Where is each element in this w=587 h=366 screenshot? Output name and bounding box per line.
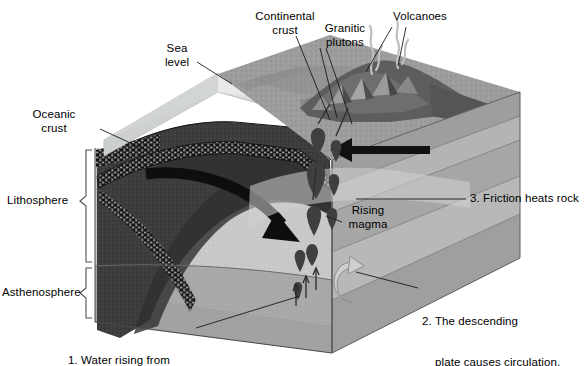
figure-canvas: Sea level Oceanic crust Continental crus… — [0, 0, 587, 366]
label-volcanoes: Volcanoes — [393, 10, 447, 24]
label-oceanic-crust: Oceanic crust — [12, 108, 96, 135]
label-asthenosphere: Asthenosphere — [2, 286, 81, 300]
note-2-line-2: plate causes circulation, — [422, 356, 560, 366]
layer-brackets — [80, 150, 92, 318]
label-granitic-plutons: Granitic plutons — [310, 22, 380, 49]
note-2-descending-plate: 2. The descending plate causes circulati… — [422, 288, 560, 366]
note-1-water-rising: 1. Water rising from heated oceanic crus… — [68, 327, 189, 366]
label-sea-level: Sea level — [148, 42, 206, 69]
note-1-line-1: 1. Water rising from — [68, 354, 189, 366]
note-2-line-1: 2. The descending — [422, 315, 560, 329]
note-3-friction-heats-rock: 3. Friction heats rock — [470, 192, 579, 206]
label-lithosphere: Lithosphere — [7, 194, 68, 208]
label-rising-magma: Rising magma — [340, 204, 396, 231]
